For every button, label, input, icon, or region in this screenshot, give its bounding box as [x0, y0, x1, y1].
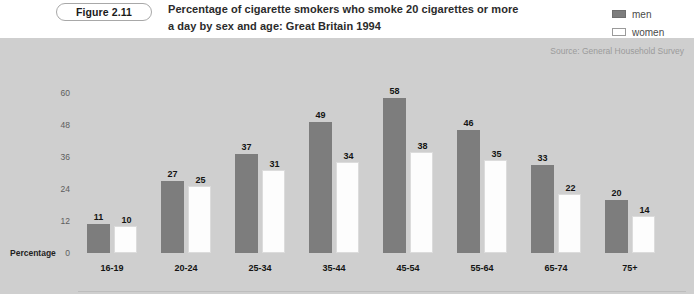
bar-value-label: 35 — [485, 149, 508, 159]
bar-group: 583845-54 — [383, 78, 433, 253]
x-axis-category-label: 45-54 — [383, 263, 433, 273]
bar-men[interactable]: 33 — [531, 165, 554, 253]
bar-women[interactable]: 35 — [484, 160, 507, 253]
figure-title-line-1: Percentage of cigarette smokers who smok… — [168, 1, 558, 18]
bar-men[interactable]: 46 — [457, 130, 480, 253]
bar-group: 463555-64 — [457, 78, 507, 253]
x-axis-category-label: 16-19 — [87, 263, 137, 273]
bar-women[interactable]: 22 — [558, 194, 581, 253]
figure-container: Figure 2.11 Percentage of cigarette smok… — [0, 0, 694, 294]
legend-swatch-women-icon — [612, 28, 626, 36]
y-axis-title: Percentage — [10, 248, 56, 258]
bar-group: 373125-34 — [235, 78, 285, 253]
bar-men[interactable]: 11 — [87, 224, 110, 253]
bar-men[interactable]: 58 — [383, 98, 406, 253]
y-axis-tick-label: 60 — [61, 88, 70, 98]
legend-label-women: women — [632, 27, 664, 38]
x-axis-category-label: 25-34 — [235, 263, 285, 273]
bar-group: 111016-19 — [87, 78, 137, 253]
x-axis-category-label: 55-64 — [457, 263, 507, 273]
bar-value-label: 10 — [115, 215, 138, 225]
chart-panel: Source: General Household Survey Percent… — [0, 38, 694, 294]
x-axis-baseline — [78, 291, 686, 292]
bar-value-label: 37 — [235, 142, 258, 152]
bar-value-label: 46 — [457, 118, 480, 128]
bar-women[interactable]: 38 — [410, 152, 433, 253]
bar-value-label: 20 — [605, 188, 628, 198]
bar-value-label: 31 — [263, 159, 286, 169]
figure-number-badge: Figure 2.11 — [56, 3, 152, 21]
figure-title: Percentage of cigarette smokers who smok… — [168, 1, 558, 35]
bar-group: 493435-44 — [309, 78, 359, 253]
bar-value-label: 38 — [411, 141, 434, 151]
y-axis-tick-label: 48 — [61, 120, 70, 130]
plot-area: 01224364860 111016-19272520-24373125-344… — [78, 38, 686, 294]
bar-value-label: 11 — [87, 212, 110, 222]
figure-title-line-2: a day by sex and age: Great Britain 1994 — [168, 18, 558, 35]
bar-women[interactable]: 31 — [262, 170, 285, 253]
bar-women[interactable]: 10 — [114, 226, 137, 253]
bar-value-label: 22 — [559, 183, 582, 193]
bar-value-label: 27 — [161, 169, 184, 179]
y-axis-tick-label: 24 — [61, 184, 70, 194]
bar-value-label: 25 — [189, 175, 212, 185]
bar-men[interactable]: 27 — [161, 181, 184, 253]
y-axis-tick-label: 0 — [65, 248, 70, 258]
legend-label-men: men — [632, 9, 651, 20]
chart-legend: men women — [612, 6, 692, 42]
bar-group: 272520-24 — [161, 78, 211, 253]
legend-swatch-men-icon — [612, 10, 626, 18]
x-axis-category-label: 20-24 — [161, 263, 211, 273]
bar-women[interactable]: 34 — [336, 162, 359, 253]
figure-header: Figure 2.11 Percentage of cigarette smok… — [0, 0, 694, 38]
x-axis-category-label: 75+ — [605, 263, 655, 273]
bar-group: 332265-74 — [531, 78, 581, 253]
legend-item-men: men — [612, 6, 692, 22]
bar-value-label: 14 — [633, 205, 656, 215]
bar-group: 201475+ — [605, 78, 655, 253]
x-axis-category-label: 65-74 — [531, 263, 581, 273]
bar-women[interactable]: 14 — [632, 216, 655, 253]
bar-women[interactable]: 25 — [188, 186, 211, 253]
bar-men[interactable]: 20 — [605, 200, 628, 253]
bar-value-label: 34 — [337, 151, 360, 161]
y-axis-tick-label: 36 — [61, 152, 70, 162]
bar-men[interactable]: 49 — [309, 122, 332, 253]
y-axis-tick-label: 12 — [61, 216, 70, 226]
bar-value-label: 33 — [531, 153, 554, 163]
x-axis-category-label: 35-44 — [309, 263, 359, 273]
bar-value-label: 58 — [383, 86, 406, 96]
bar-value-label: 49 — [309, 110, 332, 120]
bar-men[interactable]: 37 — [235, 154, 258, 253]
